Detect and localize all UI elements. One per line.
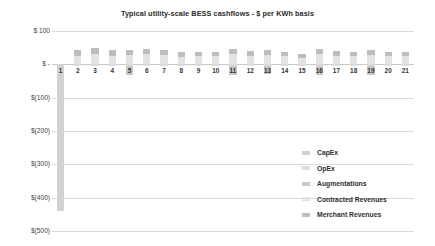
bar-group[interactable]: 9 [190,31,207,231]
bar-segment [91,48,98,54]
stacked-bar [178,31,185,231]
x-axis-tick-label: 13 [259,67,276,74]
x-axis-tick-label: 3 [86,67,103,74]
bar-segment [402,52,409,57]
y-axis: $ 100$ -$(100)$(200)$(300)$(400)$(500) [0,31,50,231]
bar-segment [247,56,254,65]
bar-group[interactable]: 13 [259,31,276,231]
legend-item-label: Augmentations [317,180,366,187]
stacked-bar [91,31,98,231]
x-axis-tick-label: 11 [224,67,241,74]
x-axis-tick-label: 9 [190,67,207,74]
bar-segment [160,64,167,66]
x-axis-tick-label: 2 [69,67,86,74]
bar-group[interactable]: 4 [104,31,121,231]
bar-segment [126,50,133,55]
bar-segment [178,57,185,64]
stacked-bar [264,31,271,231]
stacked-bar [281,31,288,231]
bar-group[interactable]: 8 [173,31,190,231]
bar-group[interactable]: 2 [69,31,86,231]
bar-group[interactable]: 10 [207,31,224,231]
legend-item[interactable]: CapEx [302,145,432,161]
stacked-bar [247,31,254,231]
bar-segment [350,56,357,64]
x-axis-tick-label: 8 [173,67,190,74]
x-axis-tick-label: 5 [121,67,138,74]
stacked-bar [160,31,167,231]
legend-item[interactable]: Augmentations [302,176,432,192]
bar-group[interactable]: 5 [121,31,138,231]
bar-segment [247,64,254,66]
bar-group[interactable]: 14 [276,31,293,231]
legend-item[interactable]: OpEx [302,161,432,177]
x-axis-tick-label: 6 [138,67,155,74]
bar-segment [195,52,202,57]
stacked-bar [143,31,150,231]
bar-segment [281,56,288,64]
x-axis-tick-label: 21 [397,67,414,74]
bar-segment [178,64,185,66]
bar-segment [316,49,323,54]
legend-item-label: CapEx [317,149,338,156]
y-axis-tick-label: $(200) [4,127,50,134]
bar-group[interactable]: 11 [224,31,241,231]
bar-segment [264,50,271,55]
bar-segment [109,56,116,65]
bar-segment [195,64,202,66]
bar-segment [143,54,150,64]
x-axis-tick-label: 10 [207,67,224,74]
bar-segment [264,55,271,64]
x-axis-tick-label: 4 [104,67,121,74]
stacked-bar [229,31,236,231]
y-axis-tick-label: $ - [4,60,50,67]
bar-segment [333,51,340,56]
x-axis-tick-label: 12 [242,67,259,74]
bar-segment [281,64,288,66]
bar-segment [143,64,150,66]
x-axis-tick-label: 18 [345,67,362,74]
stacked-bar [109,31,116,231]
legend-item-label: Contracted Revenues [317,196,387,203]
legend-item[interactable]: Contracted Revenues [302,192,432,208]
stacked-bar [195,31,202,231]
bar-segment [385,52,392,57]
bar-segment [212,56,219,64]
y-axis-tick-label: $(400) [4,194,50,201]
bar-segment [229,49,236,54]
bar-segment [160,50,167,55]
chart-title: Typical utility-scale BESS cashflows - $… [0,9,435,18]
legend-item-label: Merchant Revenues [317,211,381,218]
bar-segment [333,56,340,65]
bar-segment [91,64,98,66]
x-axis-tick-label: 20 [380,67,397,74]
bar-segment [316,54,323,64]
bar-segment [57,64,64,211]
bar-segment [298,54,305,58]
legend-swatch-icon [302,166,310,170]
x-axis-tick-label: 7 [155,67,172,74]
bar-segment [402,56,409,64]
bar-group[interactable]: 12 [242,31,259,231]
bar-segment [212,64,219,66]
bar-group[interactable]: 1 [52,31,69,231]
x-axis-tick-label: 15 [293,67,310,74]
bar-segment [402,64,409,66]
bar-segment [298,64,305,66]
y-axis-tick-label: $(300) [4,160,50,167]
bar-segment [229,54,236,64]
bar-segment [385,64,392,66]
x-axis-tick-label: 1 [52,67,69,74]
bar-segment [126,55,133,64]
stacked-bar [212,31,219,231]
bar-group[interactable]: 6 [138,31,155,231]
bar-segment [178,52,185,57]
bar-group[interactable]: 7 [155,31,172,231]
legend-item[interactable]: Merchant Revenues [302,207,432,223]
bar-segment [350,52,357,57]
legend-swatch-icon [302,182,310,186]
bar-segment [160,55,167,64]
bar-group[interactable]: 3 [86,31,103,231]
bar-segment [74,64,81,66]
x-axis-tick-label: 14 [276,67,293,74]
